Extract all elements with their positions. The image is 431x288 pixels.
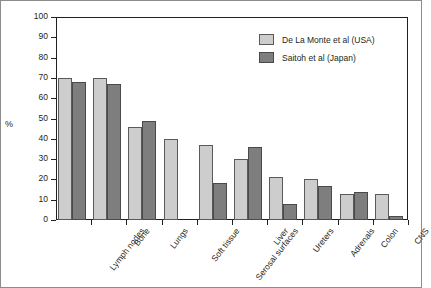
bar: [164, 139, 178, 220]
bar: [269, 177, 283, 220]
bar: [375, 194, 389, 220]
bar-group: [56, 17, 91, 220]
bar-group: [197, 17, 232, 220]
bar: [248, 147, 262, 220]
x-tick-mark: [373, 220, 374, 225]
x-tick-mark: [162, 220, 163, 225]
legend-swatch: [259, 34, 274, 45]
y-tick-label: 80: [39, 52, 48, 63]
legend-label: Saitoh et al (Japan): [282, 53, 356, 63]
bar: [213, 183, 227, 220]
legend-item: Saitoh et al (Japan): [259, 52, 375, 63]
y-tick-label: 100: [34, 11, 48, 22]
bar: [72, 82, 86, 220]
x-tick-mark: [197, 220, 198, 225]
bar: [354, 192, 368, 220]
y-tick-label: 60: [39, 92, 48, 103]
y-tick-label: 20: [39, 173, 48, 184]
x-tick-mark: [126, 220, 127, 225]
y-tick-label: 90: [39, 31, 48, 42]
bar: [142, 121, 156, 220]
bar-group: [162, 17, 197, 220]
bar: [58, 78, 72, 220]
bar: [93, 78, 107, 220]
y-tick-label: 10: [39, 194, 48, 205]
bar: [304, 179, 318, 220]
legend-item: De La Monte et al (USA): [259, 34, 375, 45]
bar: [128, 127, 142, 220]
x-tick-mark: [408, 220, 409, 225]
x-axis-label: Adrenals: [348, 226, 377, 259]
x-axis-label: CNS: [412, 226, 431, 246]
x-axis-label: Ureters: [310, 226, 335, 254]
x-axis-label: Lungs: [168, 226, 190, 250]
x-axis-labels: Lymph nodesBoneLungsSoft tissueSerosal s…: [56, 226, 408, 288]
chart-legend: De La Monte et al (USA)Saitoh et al (Jap…: [259, 34, 375, 70]
legend-label: De La Monte et al (USA): [282, 35, 375, 45]
bar-group: [126, 17, 161, 220]
bar: [318, 186, 332, 221]
x-tick-mark: [302, 220, 303, 225]
x-tick-mark: [232, 220, 233, 225]
bar-group: [91, 17, 126, 220]
y-tick-label: 40: [39, 133, 48, 144]
bar: [199, 145, 213, 220]
bar: [283, 204, 297, 220]
bar: [234, 159, 248, 220]
x-tick-mark: [338, 220, 339, 225]
x-axis-label: Colon: [379, 226, 401, 250]
bar: [340, 194, 354, 220]
y-axis-ticks: 1009080706050403020100: [1, 17, 56, 220]
bar-group: [373, 17, 408, 220]
x-axis-label: Soft tissue: [209, 226, 241, 263]
x-tick-mark: [91, 220, 92, 225]
x-tick-mark: [267, 220, 268, 225]
legend-swatch: [259, 52, 274, 63]
y-tick-label: 70: [39, 72, 48, 83]
y-tick-label: 50: [39, 113, 48, 124]
y-tick-label: 30: [39, 153, 48, 164]
y-tick-label: 0: [43, 214, 48, 225]
bar: [107, 84, 121, 220]
